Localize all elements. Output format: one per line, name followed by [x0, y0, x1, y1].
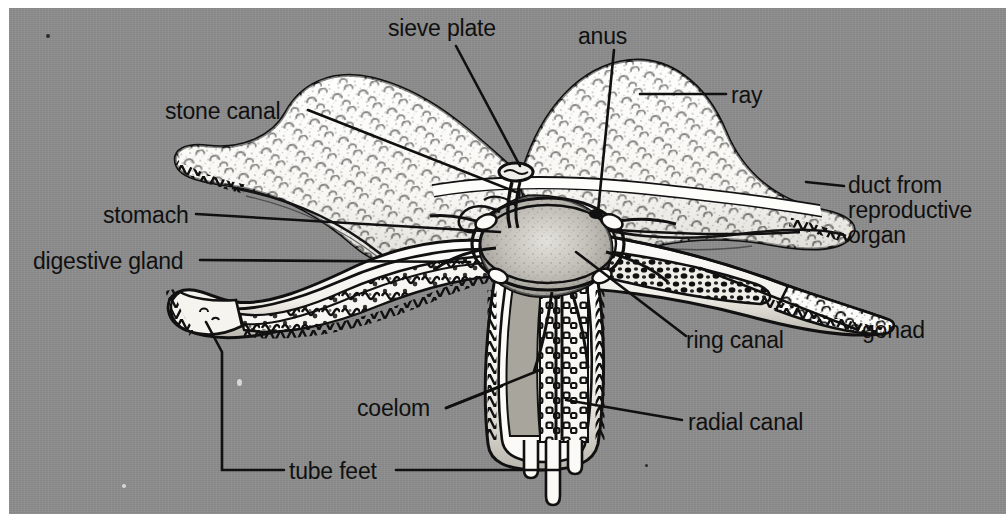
label-ray: ray	[731, 83, 762, 108]
label-duct-from-reproductive-organ-line3: organ	[848, 223, 906, 248]
figure-root: sieve plate anus ray stone canal duct fr…	[0, 0, 1006, 514]
label-anus: anus	[578, 24, 627, 49]
scan-speck	[237, 379, 242, 386]
scan-speck	[46, 34, 50, 38]
label-ring-canal: ring canal	[686, 328, 784, 353]
structure-ray-lower-left-dissected	[168, 240, 508, 337]
label-radial-canal: radial canal	[688, 410, 803, 435]
label-gonad: gonad	[862, 318, 925, 343]
structure-podia	[524, 440, 582, 505]
scan-speck	[122, 484, 126, 488]
label-stomach: stomach	[103, 203, 189, 228]
structure-anus	[589, 209, 603, 219]
label-sieve-plate: sieve plate	[388, 16, 496, 41]
structure-coelom-cavity	[507, 280, 542, 436]
label-duct-from-reproductive-organ-line1: duct from	[848, 173, 942, 198]
label-duct-from-reproductive-organ-line2: reproductive	[848, 198, 972, 223]
structure-sieve-plate	[499, 163, 533, 181]
leader-tube-feet-left	[206, 322, 284, 470]
leader-duct	[806, 182, 844, 186]
scan-speck	[645, 464, 648, 467]
label-stone-canal: stone canal	[165, 99, 280, 124]
label-tube-feet: tube feet	[289, 459, 377, 484]
label-digestive-gland: digestive gland	[33, 249, 183, 274]
label-coelom: coelom	[357, 396, 430, 421]
